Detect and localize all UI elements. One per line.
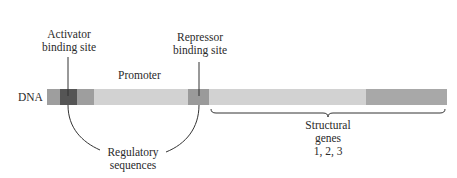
regulatory-arc-right — [166, 105, 199, 152]
promoter-label: Promoter — [118, 69, 161, 82]
dna-diagram — [0, 0, 457, 178]
dna-segment-flank-mid — [77, 89, 94, 105]
dna-segment-structural-genes-dark — [366, 89, 447, 105]
dna-label: DNA — [18, 91, 43, 104]
dna-segment-promoter — [94, 89, 188, 105]
repressor-binding-site-label: Repressor binding site — [168, 31, 232, 57]
regulatory-arc-left — [68, 105, 100, 150]
regulatory-sequences-label: Regulatory sequences — [103, 146, 163, 172]
dna-segment-structural-genes-light — [209, 89, 366, 105]
dna-bar — [47, 89, 447, 105]
dna-segment-flank-left — [47, 89, 60, 105]
activator-binding-site-label: Activator binding site — [38, 28, 100, 54]
structural-genes-label: Structural genes 1, 2, 3 — [298, 119, 358, 158]
structural-genes-brace — [211, 109, 445, 117]
